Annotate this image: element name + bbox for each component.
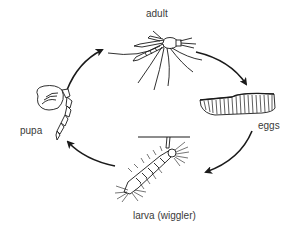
egg-raft-icon (200, 93, 275, 115)
arrow-eggs-to-larva (206, 131, 252, 172)
stage-label-larva: larva (wiggler) (133, 211, 196, 221)
arrow-larva-to-pupa (68, 142, 115, 166)
arrow-adult-to-eggs (196, 52, 246, 84)
life-cycle-diagram: adult eggs larva (wiggler) pupa (0, 0, 304, 230)
adult-mosquito-icon (108, 31, 202, 90)
diagram-drawing (0, 0, 304, 230)
arrow-pupa-to-adult (67, 50, 102, 90)
stage-label-pupa: pupa (20, 126, 42, 136)
stage-label-adult: adult (146, 9, 168, 19)
larva-icon (115, 137, 190, 202)
stage-label-eggs: eggs (258, 121, 280, 131)
